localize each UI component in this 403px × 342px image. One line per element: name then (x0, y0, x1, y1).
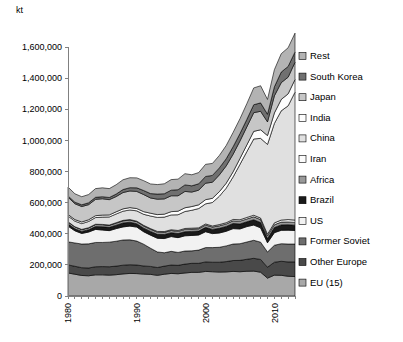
y-tick-label: 1,600,000 (22, 42, 62, 52)
legend-item-africa[interactable]: Africa (299, 174, 335, 185)
x-tick-label: 1990 (132, 303, 142, 323)
legend-item-other-europe[interactable]: Other Europe (299, 256, 367, 267)
legend-label-japan: Japan (310, 91, 336, 102)
x-axis-ticks: 1980199020002010 (63, 296, 295, 323)
legend-label-eu-15: EU (15) (310, 277, 343, 288)
legend-swatch-japan (299, 94, 306, 101)
legend-item-iran[interactable]: Iran (299, 153, 326, 164)
y-tick-label: 800,000 (29, 167, 62, 177)
legend-label-india: India (310, 112, 331, 123)
stacked-area-chart: 0200,000400,000600,000800,0001,000,0001,… (0, 0, 403, 342)
legend-swatch-other-europe (299, 259, 306, 266)
legend-item-japan[interactable]: Japan (299, 91, 336, 102)
y-axis-ticks: 0200,000400,000600,000800,0001,000,0001,… (22, 42, 68, 301)
legend-label-south-korea: South Korea (310, 71, 364, 82)
legend-item-china[interactable]: China (299, 132, 336, 143)
legend-label-africa: Africa (310, 174, 335, 185)
legend-swatch-south-korea (299, 73, 306, 80)
legend-swatch-iran (299, 156, 306, 163)
legend-label-other-europe: Other Europe (310, 256, 367, 267)
legend-item-eu-15[interactable]: EU (15) (299, 277, 343, 288)
legend-swatch-china (299, 135, 306, 142)
legend-item-india[interactable]: India (299, 112, 331, 123)
legend-label-us: US (310, 215, 323, 226)
x-tick-label: 2000 (201, 303, 211, 323)
legend-item-former-soviet[interactable]: Former Soviet (299, 235, 370, 246)
chart-bands (68, 33, 295, 296)
y-tick-label: 0 (57, 291, 62, 301)
legend-swatch-brazil (299, 197, 306, 204)
x-tick-label: 1980 (63, 303, 73, 323)
y-tick-label: 1,200,000 (22, 104, 62, 114)
legend-swatch-us (299, 217, 306, 224)
legend-item-us[interactable]: US (299, 215, 323, 226)
chart-screenshot: kt 0200,000400,000600,000800,0001,000,00… (0, 0, 403, 342)
legend-label-brazil: Brazil (310, 194, 334, 205)
y-tick-label: 1,000,000 (22, 136, 62, 146)
legend-item-rest[interactable]: Rest (299, 50, 330, 61)
y-tick-label: 200,000 (29, 260, 62, 270)
x-tick-label: 2010 (270, 303, 280, 323)
legend-item-brazil[interactable]: Brazil (299, 194, 334, 205)
legend-label-rest: Rest (310, 50, 330, 61)
legend-swatch-eu-15 (299, 279, 306, 286)
y-tick-label: 600,000 (29, 198, 62, 208)
legend-swatch-rest (299, 53, 306, 60)
y-tick-label: 1,400,000 (22, 73, 62, 83)
y-tick-label: 400,000 (29, 229, 62, 239)
legend-label-china: China (310, 132, 336, 143)
legend-swatch-former-soviet (299, 238, 306, 245)
chart-legend: RestSouth KoreaJapanIndiaChinaIranAfrica… (299, 50, 370, 288)
legend-swatch-india (299, 114, 306, 121)
legend-item-south-korea[interactable]: South Korea (299, 71, 364, 82)
legend-label-former-soviet: Former Soviet (310, 235, 370, 246)
legend-label-iran: Iran (310, 153, 326, 164)
legend-swatch-africa (299, 176, 306, 183)
